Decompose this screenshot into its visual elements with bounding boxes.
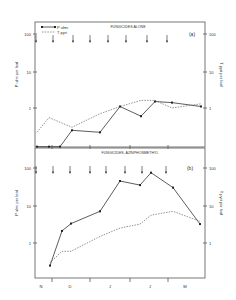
spray-arrow-icon [107,41,109,44]
data-marker [61,230,63,232]
y-tick-label-left: 10 [27,70,32,75]
spray-arrow-icon [125,41,127,44]
data-marker [139,184,141,186]
data-marker [36,146,38,148]
data-marker [200,105,202,107]
series-t-pyri [50,211,200,262]
spray-arrow-icon [89,172,91,175]
series-t-pyri [37,100,201,132]
x-tick-label: N [39,284,42,289]
y-axis-label-right: T pyri per leaf [219,191,224,216]
series-p-ulmi [50,173,200,266]
y-tick-label-left: 1 [29,241,32,246]
y-tick-label-left: 100 [24,166,31,171]
data-marker [48,146,50,148]
spray-arrow-icon [89,41,91,44]
x-tick-label: M [183,284,187,289]
y-tick-label-right: 1 [209,106,212,111]
data-marker [70,223,72,225]
y-axis-label-right: T pyri per leaf [219,62,224,87]
data-marker [119,180,121,182]
panel-title: FUNGICIDES, AZINPHOSMETHYL [102,151,159,155]
data-marker [150,172,152,174]
panel-b: 100100101011P ulmi per leafT pyri per le… [14,148,224,278]
data-marker [171,102,173,104]
y-axis-label-left: P ulmi per leaf [14,61,19,87]
data-marker [172,187,174,189]
chart-figure: 100100101011P ulmi per leafT pyri per le… [0,0,236,300]
legend: P ulmiT pyri [41,25,68,35]
x-tick-label: J [109,284,111,289]
spray-arrow-icon [72,41,74,44]
x-axis: NDJJM [39,145,187,289]
spray-arrow-icon [165,172,167,175]
spray-arrow-icon [52,172,54,175]
panel-letter: (a) [189,31,195,37]
plot-frame [35,148,205,278]
data-marker [99,210,101,212]
legend-label: T pyri [57,30,67,35]
y-tick-label-right: 10 [209,204,214,209]
spray-arrow-icon [105,172,107,175]
spray-arrow-icon [141,172,143,175]
panel-letter: (b) [187,165,193,171]
series-p-ulmi [37,102,201,147]
panel-a: 100100101011P ulmi per leafT pyri per le… [14,22,224,148]
y-tick-label-left: 10 [27,204,32,209]
data-marker [140,115,142,117]
y-tick-label-right: 100 [209,32,216,37]
spray-arrow-icon [166,41,168,44]
spray-arrow-icon [124,172,126,175]
y-tick-label-left: 100 [24,32,31,37]
panel-title: FUNGICIDES ALONE [110,25,146,29]
data-marker [59,146,61,148]
y-tick-label-left: 1 [29,106,32,111]
y-axis-label-left: P ulmi per leaf [14,189,19,215]
x-tick-label: D [68,284,71,289]
spray-arrow-icon [146,41,148,44]
spray-arrow-icon [69,172,71,175]
plot-frame [35,22,205,147]
y-tick-label-right: 1 [209,241,212,246]
data-marker [71,129,73,131]
y-tick-label-right: 10 [209,70,214,75]
data-marker [49,265,51,267]
spray-arrow-icon [52,41,54,44]
data-marker [199,223,201,225]
data-marker [99,131,101,133]
x-tick-label: J [149,284,151,289]
y-tick-label-right: 100 [209,166,216,171]
